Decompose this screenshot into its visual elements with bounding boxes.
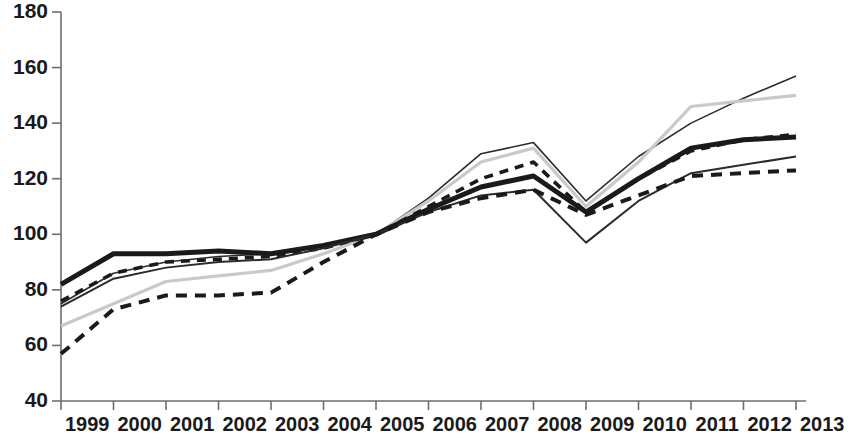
series-group xyxy=(61,76,796,354)
x-tick-label: 2006 xyxy=(425,413,485,436)
y-tick-label: 160 xyxy=(13,55,48,79)
y-tick-label: 60 xyxy=(25,332,48,356)
x-tick-label: 2005 xyxy=(372,413,432,436)
x-tick-label: 2000 xyxy=(110,413,170,436)
x-tick-label: 2012 xyxy=(740,413,800,436)
series-line-series-5 xyxy=(61,156,796,306)
x-tick-label: 2003 xyxy=(267,413,327,436)
y-tick-label: 120 xyxy=(13,166,48,190)
x-tick-label: 2002 xyxy=(215,413,275,436)
x-tick-label: 1999 xyxy=(57,413,117,436)
x-tick-label: 2009 xyxy=(582,413,642,436)
x-tick-label: 2007 xyxy=(477,413,537,436)
y-tick-label: 140 xyxy=(13,110,48,134)
x-tick-label: 2008 xyxy=(530,413,590,436)
series-line-series-4 xyxy=(61,134,796,301)
y-tick-label: 180 xyxy=(13,0,48,23)
y-tick-label: 40 xyxy=(25,388,48,412)
x-tick-label: 2001 xyxy=(162,413,222,436)
y-tick-label: 80 xyxy=(25,277,48,301)
x-tick-label: 2011 xyxy=(687,413,747,436)
y-tick-label: 100 xyxy=(13,221,48,245)
x-tick-label: 2013 xyxy=(792,413,849,436)
x-tick-label: 2004 xyxy=(320,413,380,436)
x-tick-label: 2010 xyxy=(635,413,695,436)
